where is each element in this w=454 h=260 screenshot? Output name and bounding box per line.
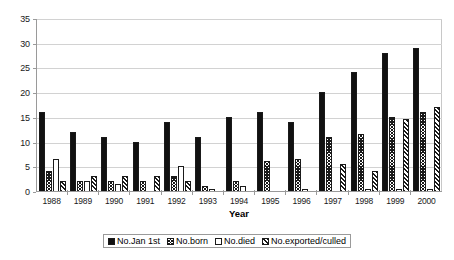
legend-item[interactable]: No.born — [167, 236, 208, 246]
bar-group — [224, 19, 255, 191]
bar — [372, 171, 378, 191]
bar-group — [130, 19, 161, 191]
bar — [319, 92, 325, 191]
y-tick-label: 0 — [25, 187, 30, 197]
x-tick-label: 1998 — [348, 196, 379, 206]
bar — [108, 181, 114, 191]
x-tick-label: 1992 — [161, 196, 192, 206]
x-tick-label: 1991 — [130, 196, 161, 206]
x-tick-label: 2000 — [411, 196, 442, 206]
bar — [60, 181, 66, 191]
legend-swatch-icon — [108, 238, 115, 245]
y-tick-label: 10 — [20, 138, 30, 148]
bar — [178, 166, 184, 191]
bar-group — [162, 19, 193, 191]
bar — [288, 122, 294, 191]
x-axis-tick-labels: 1988198919901991199219931994199519961997… — [36, 196, 442, 206]
bar-group — [317, 19, 348, 191]
bar — [53, 159, 59, 191]
legend-swatch-icon — [167, 238, 174, 245]
x-tick-label: 1988 — [36, 196, 67, 206]
bar — [84, 181, 90, 191]
bar — [115, 184, 121, 191]
bar — [91, 176, 97, 191]
legend: No.Jan 1stNo.bornNo.diedNo.exported/cull… — [0, 234, 454, 248]
bar — [358, 134, 364, 191]
bar-group — [380, 19, 411, 191]
bar — [164, 122, 170, 191]
bar-chart: 05101520253035 1988198919901991199219931… — [0, 0, 454, 260]
bar — [154, 176, 160, 191]
plot-area — [36, 19, 442, 192]
bar-group — [193, 19, 224, 191]
bar — [302, 189, 308, 191]
legend-label: No.Jan 1st — [117, 236, 160, 246]
bar — [326, 137, 332, 191]
legend-label: No.exported/culled — [271, 236, 346, 246]
bar-group — [37, 19, 68, 191]
bar — [101, 137, 107, 191]
bar — [427, 189, 433, 191]
bar — [403, 119, 409, 191]
bar — [185, 181, 191, 191]
bar — [70, 132, 76, 191]
y-tick-label: 25 — [20, 63, 30, 73]
bar — [202, 186, 208, 191]
x-tick-label: 1999 — [380, 196, 411, 206]
bar — [413, 48, 419, 191]
bar — [420, 112, 426, 191]
x-tick-label: 1994 — [223, 196, 254, 206]
y-tick-label: 5 — [25, 162, 30, 172]
legend-label: No.born — [176, 236, 208, 246]
bar — [226, 117, 232, 191]
x-axis-title: Year — [36, 208, 442, 219]
bar — [240, 186, 246, 191]
x-tick-label: 1989 — [67, 196, 98, 206]
bar-group — [349, 19, 380, 191]
bar — [133, 142, 139, 191]
legend-item[interactable]: No.Jan 1st — [108, 236, 160, 246]
bar — [264, 161, 270, 191]
y-tick-label: 15 — [20, 113, 30, 123]
bar — [46, 171, 52, 191]
x-tick-label: 1996 — [286, 196, 317, 206]
x-tick-label: 1995 — [255, 196, 286, 206]
bar — [389, 117, 395, 191]
bar-group — [411, 19, 442, 191]
bar — [77, 181, 83, 191]
bar-groups — [37, 19, 442, 191]
y-tick-label: 30 — [20, 39, 30, 49]
bar — [340, 164, 346, 191]
legend-box: No.Jan 1stNo.bornNo.diedNo.exported/cull… — [103, 234, 351, 248]
legend-item[interactable]: No.exported/culled — [262, 236, 346, 246]
x-tick-label: 1993 — [192, 196, 223, 206]
bar — [257, 112, 263, 191]
bar-group — [286, 19, 317, 191]
bar — [195, 137, 201, 191]
legend-swatch-icon — [262, 238, 269, 245]
bar — [171, 176, 177, 191]
x-tick-label: 1990 — [98, 196, 129, 206]
bar — [365, 189, 371, 191]
y-tick-label: 35 — [20, 14, 30, 24]
legend-item[interactable]: No.died — [215, 236, 255, 246]
y-tick-label: 20 — [20, 88, 30, 98]
legend-label: No.died — [224, 236, 255, 246]
bar — [39, 112, 45, 191]
bar — [434, 107, 440, 191]
bar-group — [99, 19, 130, 191]
bar-group — [68, 19, 99, 191]
bar-group — [255, 19, 286, 191]
bar — [396, 189, 402, 191]
x-tick-label: 1997 — [317, 196, 348, 206]
bar — [382, 53, 388, 191]
bar — [351, 72, 357, 191]
bar — [122, 176, 128, 191]
bar — [140, 181, 146, 191]
bar — [209, 189, 215, 191]
bar — [233, 181, 239, 191]
y-axis: 05101520253035 — [0, 0, 36, 200]
legend-swatch-icon — [215, 238, 222, 245]
y-tick-mark — [33, 192, 36, 193]
bar — [295, 159, 301, 191]
